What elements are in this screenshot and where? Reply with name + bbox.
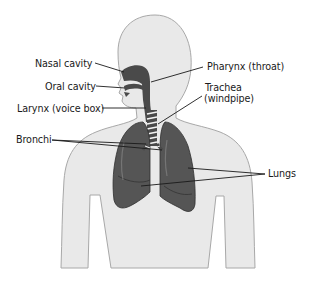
label-lungs: Lungs [268,168,296,179]
label-larynx: Larynx (voice box) [17,103,104,114]
label-oral-cavity: Oral cavity [45,81,96,92]
label-nasal-cavity: Nasal cavity [35,58,92,69]
respiratory-diagram: Nasal cavity Oral cavity Larynx (voice b… [0,0,309,281]
label-trachea: Trachea [205,82,242,93]
label-pharynx: Pharynx (throat) [207,61,284,72]
label-windpipe: (windpipe) [204,93,254,104]
label-bronchi: Bronchi [16,134,52,145]
